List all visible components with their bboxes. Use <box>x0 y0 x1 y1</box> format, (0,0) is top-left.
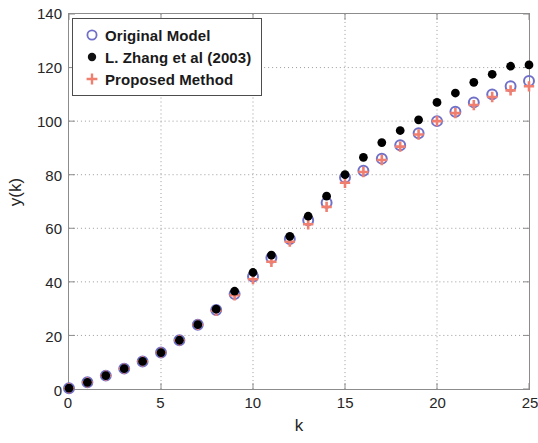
x-tick-5: 5 <box>156 394 164 411</box>
x-tick-20: 20 <box>429 394 446 411</box>
y-tick-120: 120 <box>37 58 62 75</box>
y-tick-80: 80 <box>45 166 62 183</box>
x-tick-15: 15 <box>337 394 354 411</box>
legend-label-zhang: L. Zhang et al (2003) <box>105 49 251 66</box>
y-tick-40: 40 <box>45 274 62 291</box>
circle-open-icon <box>79 24 105 46</box>
legend-item-zhang: L. Zhang et al (2003) <box>79 46 251 68</box>
y-tick-0: 0 <box>54 382 62 399</box>
legend-label-proposed-method: Proposed Method <box>105 71 233 88</box>
legend-label-original-model: Original Model <box>105 27 211 44</box>
y-tick-20: 20 <box>45 328 62 345</box>
plus-icon <box>79 68 105 90</box>
circle-filled-icon <box>79 46 105 68</box>
x-axis-title: k <box>68 416 530 436</box>
y-tick-140: 140 <box>37 5 62 22</box>
y-tick-100: 100 <box>37 112 62 129</box>
x-tick-25: 25 <box>522 394 538 411</box>
x-axis-tick-labels: 0510152025 <box>68 394 530 414</box>
x-tick-10: 10 <box>244 394 261 411</box>
y-tick-60: 60 <box>45 220 62 237</box>
legend-item-proposed-method: Proposed Method <box>79 68 251 90</box>
legend: Original Model L. Zhang et al (2003) Pro… <box>72 18 262 96</box>
y-axis-title: y(k) <box>6 152 26 232</box>
legend-item-original-model: Original Model <box>79 24 251 46</box>
x-tick-0: 0 <box>64 394 72 411</box>
